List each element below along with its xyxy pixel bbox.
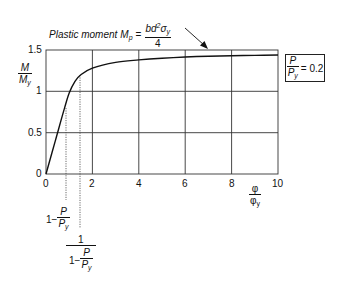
x-tick-10: 10 <box>272 179 283 189</box>
x-tick-8: 8 <box>229 179 235 189</box>
y-tick-0.5: 0.5 <box>28 128 42 138</box>
plastic-moment-annotation: Plastic moment Mp = bd2σy 4 <box>49 20 171 49</box>
y-axis-label: M My <box>18 62 32 88</box>
load-ratio-fraction: P Py <box>287 55 299 81</box>
load-ratio-value: = 0.2 <box>301 63 324 74</box>
plastic-moment-text: Plastic moment <box>49 29 117 40</box>
ref-label-1: 1− P Py <box>46 206 70 232</box>
x-tick-0: 0 <box>43 179 49 189</box>
y-label-numerator: M <box>20 62 30 73</box>
load-ratio-box: P Py = 0.2 <box>285 54 325 82</box>
x-tick-4: 4 <box>136 179 142 189</box>
x-label-numerator: φ <box>251 183 259 194</box>
x-axis-label: φ φy <box>249 183 261 209</box>
x-tick-6: 6 <box>182 179 188 189</box>
plastic-moment-symbol: Mp <box>120 29 132 41</box>
x-tick-2: 2 <box>89 179 95 189</box>
equals-sign: = <box>136 29 142 40</box>
plot-grid <box>46 50 278 174</box>
moment-curve <box>46 55 278 174</box>
y-label-denominator: My <box>18 73 32 88</box>
plastic-moment-formula: bd2σy 4 <box>144 20 171 49</box>
ref-label-2: 1 1− P Py <box>66 234 96 273</box>
plastic-moment-arrow <box>185 28 208 49</box>
y-tick-0: 0 <box>36 169 42 179</box>
y-tick-1: 1 <box>36 86 42 96</box>
x-label-denominator: φy <box>249 194 261 209</box>
y-tick-1.5: 1.5 <box>28 45 42 55</box>
